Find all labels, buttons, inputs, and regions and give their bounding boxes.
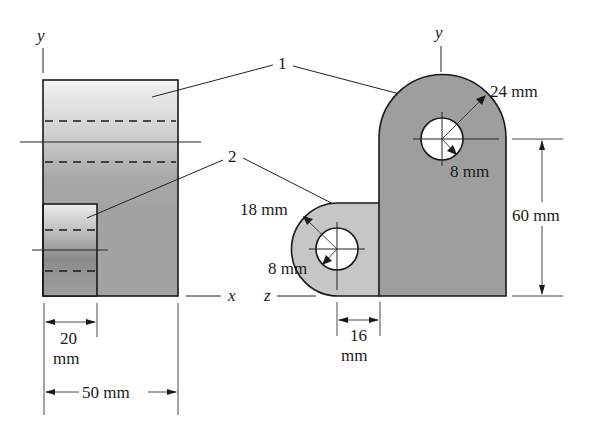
arrowhead <box>539 285 545 295</box>
arrowhead <box>45 319 55 325</box>
part1-hole-radius-label: 8 mm <box>450 162 489 181</box>
part1-outer-radius-label: 24 mm <box>490 82 538 101</box>
part-label-2: 2 <box>228 147 237 166</box>
part1-front-view <box>379 74 506 296</box>
right-view: y 24 mm 8 mm 18 mm 8 mm z <box>240 23 563 365</box>
dim-20-unit: mm <box>53 349 79 368</box>
dim-20-value: 20 <box>60 329 77 348</box>
part2-hole-radius-label: 8 mm <box>268 259 307 278</box>
part1-height-label: 60 mm <box>512 206 560 225</box>
arrowhead <box>539 140 545 150</box>
dim-16-unit: mm <box>341 346 367 365</box>
part2-outer-radius-label: 18 mm <box>240 200 288 219</box>
x-axis-label: x <box>227 286 236 305</box>
arrowhead <box>167 389 177 395</box>
dim-50-label: 50 mm <box>82 383 130 402</box>
part-label-1: 1 <box>278 54 287 73</box>
arrowhead <box>338 317 348 323</box>
dim-16-value: 16 <box>350 326 367 345</box>
z-axis-label: z <box>263 286 271 305</box>
arrowhead <box>45 389 55 395</box>
arrowhead <box>369 317 379 323</box>
arrowhead <box>86 319 96 325</box>
part1-side-lower <box>97 204 178 296</box>
y-axis-label-left: y <box>35 26 45 45</box>
engineering-diagram: y x 20 mm 50 mm <box>0 0 597 422</box>
left-view: y x 20 mm 50 mm <box>20 26 236 415</box>
y-axis-label-right: y <box>433 23 443 42</box>
